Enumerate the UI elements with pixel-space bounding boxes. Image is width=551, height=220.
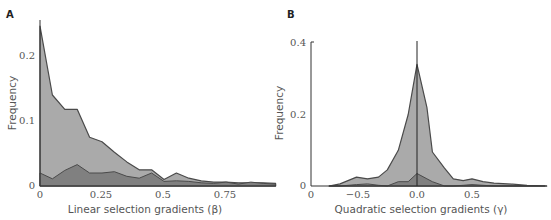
panel-b-ytick-2: 0.4 (290, 37, 306, 48)
panel-a-xtick-1: 0.25 (90, 189, 112, 200)
panel-b: B 0 0.2 0.4 0 −0.5 0.0 0.5 Quadratic sel… (273, 9, 547, 215)
panel-b-ytick-0: 0 (300, 180, 306, 191)
panel-a-xtick-2: 0.5 (155, 189, 171, 200)
total-frequency-area (40, 26, 276, 186)
total-frequency-area (329, 64, 547, 186)
panel-b-x-title: Quadratic selection gradients (γ) (335, 203, 508, 215)
panel-b-xtick-3: 0.5 (464, 189, 480, 200)
panel-a-xtick-3: 0.75 (214, 189, 236, 200)
panel-b-y-title: Frequency (273, 86, 285, 140)
panel-a-ytick-1: 0.1 (19, 115, 35, 126)
panel-a-y-title: Frequency (6, 76, 18, 130)
panel-a-x-title: Linear selection gradients (β) (68, 203, 222, 215)
panel-b-xtick-0: 0 (308, 189, 314, 200)
panel-a-areas (40, 26, 276, 186)
panel-b-xtick-2: 0.0 (409, 189, 425, 200)
panel-a: A 0 0.1 0.2 0 0.25 0.5 0.75 Linear selec… (6, 9, 276, 215)
panel-a-label: A (6, 9, 14, 20)
panel-b-areas (329, 64, 547, 186)
panel-b-xtick-1: −0.5 (346, 189, 370, 200)
panel-b-label: B (287, 9, 295, 20)
panel-a-xtick-0: 0 (37, 189, 43, 200)
panel-b-ytick-1: 0.2 (290, 109, 306, 120)
figure: A 0 0.1 0.2 0 0.25 0.5 0.75 Linear selec… (0, 0, 551, 220)
panel-a-ytick-2: 0.2 (19, 50, 35, 61)
panel-a-ytick-0: 0 (29, 180, 35, 191)
